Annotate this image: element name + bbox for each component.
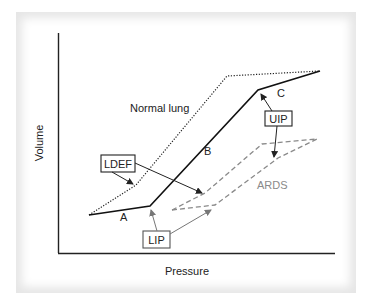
uip-label: UIP <box>269 113 287 125</box>
lip-arrow-ards <box>170 210 211 234</box>
lip-label: LIP <box>148 234 165 246</box>
segment-label-b: B <box>204 145 211 157</box>
ards-curve-upper <box>172 139 317 210</box>
x-axis-label: Pressure <box>165 265 209 277</box>
uip-arrow-solid <box>261 94 272 111</box>
segment-label-c: C <box>277 87 285 99</box>
normal-lung-label: Normal lung <box>130 102 189 114</box>
lip-arrow-solid <box>151 210 157 231</box>
ards-label: ARDS <box>257 179 288 191</box>
uip-callout: UIP <box>261 94 292 157</box>
lip-callout: LIP <box>143 210 211 248</box>
uip-arrow-ards <box>274 126 277 157</box>
ldef-arrow-ards <box>135 163 202 193</box>
ldef-label: LDEF <box>104 158 132 170</box>
ldef-arrow-normal <box>112 172 133 184</box>
pressure-volume-diagram: Pressure Volume Normal lung ARDS A B C L… <box>0 0 367 307</box>
ldef-callout: LDEF <box>101 155 202 193</box>
segment-label-a: A <box>120 211 128 223</box>
y-axis-label: Volume <box>33 125 45 162</box>
